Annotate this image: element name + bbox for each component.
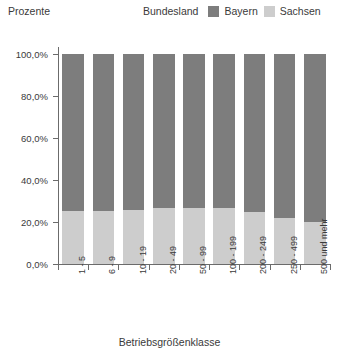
x-category-label: 100 - 199 [228,236,238,274]
x-category-label: 500 und mehr [319,218,329,274]
y-tick-label: 20,0% [21,217,48,228]
x-tick-mark [149,265,150,270]
legend-item-sachsen: Sachsen [264,5,321,17]
bar-stack[interactable] [213,54,235,264]
y-tick-label: 40,0% [21,175,48,186]
chart-container: Prozente Bundesland Bayern Sachsen 0,0%2… [0,0,339,354]
x-category-label: 6 - 9 [107,256,117,274]
y-axis-title: Prozente [8,5,50,17]
bar-segment-bayern[interactable] [304,54,326,222]
x-tick-mark [300,265,301,270]
x-tick-mark [179,265,180,270]
x-category-label: 250 - 499 [289,236,299,274]
x-tick-mark [88,265,89,270]
x-category-label: 20 - 49 [168,246,178,274]
bar-stack[interactable] [123,54,145,264]
legend-swatch-bayern [208,6,219,17]
legend-label-sachsen: Sachsen [280,5,321,17]
x-category-label: 1 - 5 [77,256,87,274]
bar-stack[interactable] [153,54,175,264]
x-category-label: 50 - 99 [198,246,208,274]
y-tick-label: 100,0% [16,49,48,60]
bar-series-group [58,54,330,264]
bar-stack[interactable] [93,54,115,264]
bar-segment-bayern[interactable] [244,54,266,212]
bar-segment-bayern[interactable] [153,54,175,208]
legend-label-bayern: Bayern [224,5,257,17]
x-category-label: 200 - 249 [258,236,268,274]
x-axis-title: Betriebsgrößenklasse [0,336,339,348]
legend-title: Bundesland [143,5,198,17]
bar-segment-bayern[interactable] [123,54,145,210]
y-tick-label: 0,0% [26,259,48,270]
bar-segment-bayern[interactable] [213,54,235,208]
x-category-label: 10 - 19 [138,246,148,274]
x-tick-mark [270,265,271,270]
y-tick-label: 80,0% [21,91,48,102]
plot-area [58,54,330,264]
x-tick-mark [58,265,59,270]
bar-segment-bayern[interactable] [183,54,205,208]
bar-segment-bayern[interactable] [93,54,115,211]
bar-stack[interactable] [183,54,205,264]
x-tick-mark [209,265,210,270]
bar-stack[interactable] [244,54,266,264]
bar-segment-bayern[interactable] [274,54,296,218]
y-tick-label: 60,0% [21,133,48,144]
x-tick-mark [330,265,331,270]
x-tick-mark [239,265,240,270]
chart-legend: Bundesland Bayern Sachsen [143,5,321,17]
legend-swatch-sachsen [264,6,275,17]
x-tick-mark [118,265,119,270]
bar-segment-bayern[interactable] [62,54,84,211]
bar-stack[interactable] [62,54,84,264]
bar-stack[interactable] [274,54,296,264]
legend-item-bayern: Bayern [208,5,257,17]
